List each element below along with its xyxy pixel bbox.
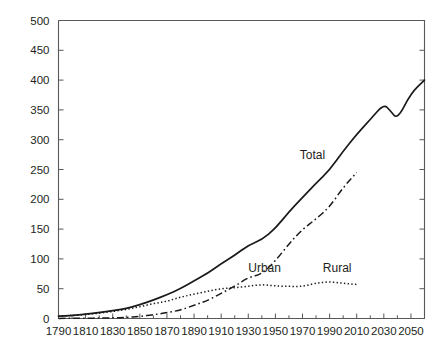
y-tick-label-500: 500: [30, 15, 49, 27]
x-tick-label-2030: 2030: [371, 325, 397, 337]
x-tick-label-1910: 1910: [208, 325, 234, 337]
axis-top-right: [59, 21, 425, 319]
y-tick-label-300: 300: [30, 134, 49, 146]
series-line-total: [59, 80, 425, 316]
series-line-urban: [59, 172, 357, 318]
y-tick-label-0: 0: [43, 313, 49, 325]
x-tick-label-2010: 2010: [344, 325, 370, 337]
chart-axes: [59, 21, 425, 319]
series-label-rural: Rural: [323, 261, 352, 275]
axis-left-bottom: [59, 21, 425, 319]
series-label-urban: Urban: [248, 261, 281, 275]
x-tick-label-1810: 1810: [73, 325, 99, 337]
y-tick-label-50: 50: [37, 283, 50, 295]
x-tick-label-1890: 1890: [181, 325, 207, 337]
x-tick-label-2050: 2050: [398, 325, 424, 337]
y-tick-label-350: 350: [30, 104, 49, 116]
y-tick-label-250: 250: [30, 164, 49, 176]
x-tick-label-1870: 1870: [154, 325, 180, 337]
x-tick-label-1970: 1970: [290, 325, 316, 337]
x-tick-label-1930: 1930: [235, 325, 261, 337]
y-axis-ticks: 050100150200250300350400450500: [30, 15, 424, 325]
population-line-chart: 050100150200250300350400450500 179018101…: [0, 0, 438, 349]
x-tick-label-1850: 1850: [127, 325, 153, 337]
x-axis-ticks: 1790181018301850187018901910193019501970…: [46, 314, 425, 337]
x-tick-label-1790: 1790: [46, 325, 72, 337]
y-tick-label-450: 450: [30, 44, 49, 56]
x-tick-label-1990: 1990: [317, 325, 343, 337]
x-tick-label-1830: 1830: [100, 325, 126, 337]
series-labels-group: TotalUrbanRural: [248, 148, 351, 275]
chart-figure: 050100150200250300350400450500 179018101…: [0, 0, 438, 349]
series-label-total: Total: [300, 148, 325, 162]
y-tick-label-100: 100: [30, 253, 49, 265]
x-tick-label-1950: 1950: [263, 325, 289, 337]
chart-series-group: [59, 80, 425, 318]
y-tick-label-200: 200: [30, 193, 49, 205]
y-tick-label-150: 150: [30, 223, 49, 235]
y-tick-label-400: 400: [30, 74, 49, 86]
